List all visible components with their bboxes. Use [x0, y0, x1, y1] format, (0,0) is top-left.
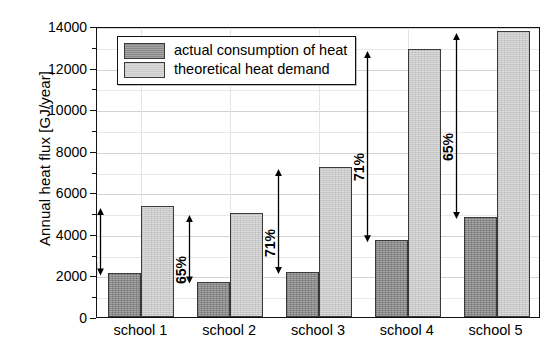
- y-tick-label: 4000: [0, 227, 87, 243]
- x-tick-label: school 3: [291, 322, 345, 338]
- y-tick-mark-minor: [92, 173, 96, 174]
- x-tick-label: school 5: [469, 322, 523, 338]
- y-tick-label: 10000: [0, 102, 87, 118]
- y-tick-label: 0: [0, 310, 87, 326]
- bar-actual-consumption: [108, 273, 141, 317]
- percentage-label: 65%: [440, 125, 456, 169]
- chart-legend: actual consumption of heat theoretical h…: [117, 36, 356, 85]
- legend-swatch-theoretical: [124, 62, 165, 78]
- legend-item: theoretical heat demand: [124, 60, 347, 79]
- legend-label-theoretical: theoretical heat demand: [174, 62, 330, 77]
- x-tick-label: school 2: [202, 322, 256, 338]
- y-tick-mark-minor: [92, 297, 96, 298]
- y-tick-mark-minor: [92, 89, 96, 90]
- legend-label-actual: actual consumption of heat: [174, 43, 347, 58]
- y-tick-mark: [90, 27, 96, 28]
- y-tick-mark: [90, 235, 96, 236]
- bar-actual-consumption: [197, 282, 230, 317]
- percentage-label: 65%: [173, 248, 189, 292]
- y-tick-mark: [90, 69, 96, 70]
- percentage-label: 61%: [97, 241, 100, 285]
- y-tick-label: 12000: [0, 61, 87, 77]
- y-tick-mark-minor: [92, 256, 96, 257]
- chart-figure: Annual heat flux [GJ/year] 61%65%71%71%6…: [0, 0, 557, 354]
- bar-actual-consumption: [375, 240, 408, 317]
- y-tick-mark: [90, 318, 96, 319]
- y-tick-mark: [90, 276, 96, 277]
- y-tick-label: 14000: [0, 19, 87, 35]
- x-tick-label: school 1: [113, 322, 167, 338]
- x-tick-label: school 4: [380, 322, 434, 338]
- bar-theoretical-demand: [141, 206, 174, 317]
- percentage-label: 71%: [262, 221, 278, 265]
- y-tick-mark: [90, 152, 96, 153]
- bar-group: [464, 28, 530, 317]
- y-tick-label: 8000: [0, 144, 87, 160]
- percentage-label: 71%: [351, 145, 367, 189]
- bar-actual-consumption: [464, 217, 497, 317]
- y-tick-label: 2000: [0, 268, 87, 284]
- legend-item: actual consumption of heat: [124, 41, 347, 60]
- y-tick-label: 6000: [0, 185, 87, 201]
- y-tick-mark-minor: [92, 48, 96, 49]
- y-tick-mark-minor: [92, 131, 96, 132]
- bar-theoretical-demand: [319, 167, 352, 317]
- bar-actual-consumption: [286, 272, 319, 317]
- bar-theoretical-demand: [230, 213, 263, 317]
- bar-theoretical-demand: [497, 31, 530, 317]
- bar-group: [375, 28, 441, 317]
- y-tick-mark-minor: [92, 214, 96, 215]
- y-tick-mark: [90, 110, 96, 111]
- legend-swatch-actual: [124, 43, 165, 59]
- y-tick-mark: [90, 193, 96, 194]
- bar-theoretical-demand: [408, 49, 441, 317]
